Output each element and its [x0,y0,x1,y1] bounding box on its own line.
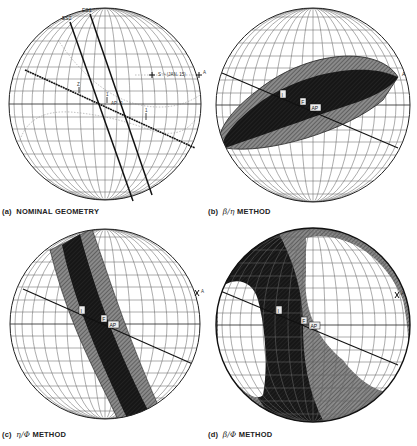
a-marker [195,290,199,296]
svg-text:AP: AP [312,105,319,111]
tick1-label: 1 [106,92,109,97]
svg-text:F: F [302,318,305,324]
svg-text:AP: AP [110,322,117,328]
sun-marker [149,72,155,78]
marker-f: F [301,317,307,324]
celestial-sphere-b: I F AP A [208,0,417,210]
panel-b-beta-eta-method: I F AP A (b) β/η METHOD [208,0,417,220]
es1-label: ES1 [82,7,92,13]
sun-label: S⁻¹ (JAN. 15) [158,72,186,77]
marker-ap: AP [108,321,119,328]
caption-d: (d) β/Φ METHOD [208,430,272,439]
svg-text:I: I [278,308,279,314]
svg-text:F: F [102,316,105,322]
tick2-label: 2 [120,101,123,106]
svg-text:I: I [282,92,283,98]
panel-a-nominal-geometry: ES1 ES2 S⁻¹ (JAN. 15) A Z 1 AP 2 1 (a) N… [0,0,210,220]
z-label: Z [77,82,80,87]
celestial-sphere-c: I F AP A [0,220,210,430]
marker-f: F [300,98,306,105]
tick1b-label: 1 [145,108,148,113]
a-label: A [401,291,404,296]
caption-c: (c) η/Φ METHOD [2,430,66,439]
celestial-sphere-d: I F AP A [208,220,417,430]
es2-label: ES2 [62,15,72,21]
caption-a: (a) NOMINAL GEOMETRY [2,207,99,216]
grid-a [0,0,210,210]
marker-i: I [276,306,282,314]
a-label: A [203,70,206,75]
svg-text:AP: AP [311,323,318,329]
marker-i: I [79,306,85,314]
svg-text:I: I [81,308,82,314]
a-label: A [201,289,204,294]
marker-i: I [280,90,286,98]
caption-b: (b) β/η METHOD [208,207,271,216]
marker-ap: AP [309,322,320,329]
marker-ap: AP [310,104,321,111]
panel-d-beta-phi-method: I F AP A (d) β/Φ METHOD [208,220,417,446]
marker-f: F [101,315,107,322]
panel-c-eta-phi-method: I F AP A (c) η/Φ METHOD [0,220,210,446]
ap-label: AP [111,101,117,106]
celestial-sphere-a: ES1 ES2 S⁻¹ (JAN. 15) A Z 1 AP 2 1 [0,0,210,210]
svg-text:F: F [301,99,304,105]
